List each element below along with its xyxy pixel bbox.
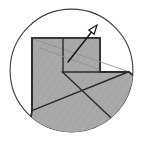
geometry-figure — [0, 0, 145, 143]
figure-container — [0, 0, 145, 143]
